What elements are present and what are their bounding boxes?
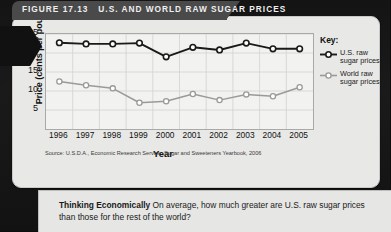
y-tick-label: 15 — [16, 65, 38, 75]
legend-swatch-us-icon — [320, 50, 337, 59]
caption-text: Thinking Economically On average, how mu… — [59, 200, 381, 223]
chart-legend: Key: U.S. raw sugar prices World raw sug… — [320, 35, 380, 90]
chart-area: Price (cents per pound) 510152025 199619… — [13, 17, 379, 187]
figure-card: Price (cents per pound) 510152025 199619… — [12, 16, 380, 188]
figure-title-label: U.S. AND WORLD RAW SUGAR PRICES — [98, 4, 286, 14]
legend-item-world: World raw sugar prices — [320, 70, 380, 87]
caption-box: Thinking Economically On average, how mu… — [38, 190, 391, 232]
y-tick-label: 10 — [16, 84, 38, 94]
legend-label-world: World raw sugar prices — [340, 70, 380, 87]
chart-source: Source: U.S.D.A., Economic Research Serv… — [45, 150, 275, 157]
legend-label-us: U.S. raw sugar prices — [340, 49, 380, 66]
legend-swatch-world-icon — [320, 71, 337, 80]
x-tick-label: 2005 — [282, 130, 316, 140]
caption-heading: Thinking Economically — [59, 200, 150, 210]
legend-item-us: U.S. raw sugar prices — [320, 49, 380, 66]
y-tick-label: 5 — [16, 103, 38, 113]
legend-title: Key: — [320, 35, 380, 45]
line-chart-svg — [46, 34, 313, 129]
figure-number: FIGURE 17.13 — [22, 4, 88, 14]
figure-title: FIGURE 17.13 U.S. AND WORLD RAW SUGAR PR… — [22, 4, 286, 14]
plot-area — [45, 33, 314, 130]
